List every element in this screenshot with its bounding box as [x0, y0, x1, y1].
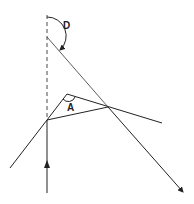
prism-diagram: D A [0, 0, 194, 204]
deviation-label: D [63, 20, 70, 31]
refracted-ray [47, 107, 108, 120]
diagram-svg: D A [0, 0, 194, 204]
prism-right-face [67, 94, 162, 123]
prism-left-face [10, 94, 67, 168]
incident-arrow-icon [44, 160, 50, 168]
emergent-ray [108, 107, 183, 192]
emergent-ray-extension [47, 37, 108, 107]
apex-angle-label: A [67, 102, 74, 113]
apex-angle-arc [63, 97, 75, 102]
